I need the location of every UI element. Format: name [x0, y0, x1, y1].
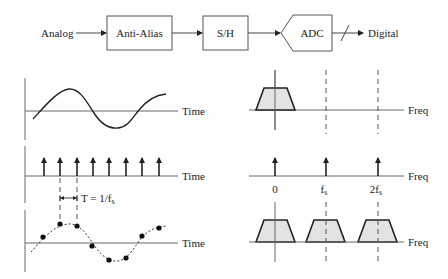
sampled-spectrum-panel: Freq [249, 202, 429, 264]
time-axis-label: Time [182, 170, 205, 182]
time-axis-label: Time [182, 237, 205, 249]
impulses [44, 158, 159, 176]
sample-points [40, 221, 161, 262]
impulse-spectrum-panel: Freq 0 fs 2fs [249, 158, 429, 197]
period-label: T = 1/fs [81, 192, 115, 206]
freq-axis-label: Freq [408, 104, 429, 116]
impulse-train-panel: Time T = 1/fs [25, 146, 205, 220]
analog-input-label: Analog [41, 27, 74, 39]
freq-label-2fs: 2fs [370, 183, 382, 197]
analog-waveform [33, 89, 166, 128]
sampled-signal-panel: Time [25, 210, 205, 272]
analog-signal-panel: Time [25, 78, 205, 140]
sample-hold-label: S/H [217, 27, 234, 39]
adc-label: ADC [300, 27, 323, 39]
freq-label-fs: fs [321, 183, 328, 197]
freq-axis-label: Freq [408, 170, 429, 182]
anti-alias-label: Anti-Alias [116, 27, 162, 39]
freq-label-0: 0 [272, 183, 278, 195]
freq-axis-label: Freq [408, 236, 429, 248]
analog-spectrum-panel: Freq [249, 70, 429, 134]
digital-output-label: Digital [368, 27, 399, 39]
time-axis-label: Time [182, 105, 205, 117]
sampling-diagram: Analog Anti-Alias S/H ADC Digital Time T… [0, 0, 448, 279]
block-diagram: Analog Anti-Alias S/H ADC Digital [41, 15, 399, 51]
